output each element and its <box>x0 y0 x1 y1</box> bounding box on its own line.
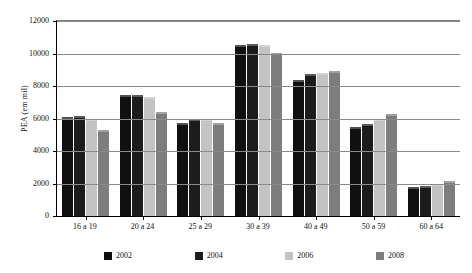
y-tick-label: 6000 <box>0 115 49 123</box>
x-axis-label: 50 a 59 <box>345 222 403 231</box>
bar <box>432 184 443 216</box>
bar <box>62 117 73 216</box>
y-tick-mark <box>53 184 57 185</box>
x-axis-labels: 16 a 1920 a 2425 a 2930 a 3940 a 4950 a … <box>56 222 460 231</box>
bar <box>259 45 270 216</box>
bar-highlight <box>213 123 224 125</box>
legend-swatch-icon <box>285 252 293 260</box>
y-tick-mark <box>53 86 57 87</box>
x-axis-label: 40 a 49 <box>287 222 345 231</box>
y-tick-label: 8000 <box>0 82 49 90</box>
legend-swatch-icon <box>104 252 112 260</box>
gridline <box>57 54 460 55</box>
bar <box>305 74 316 216</box>
legend-item[interactable]: 2004 <box>195 251 223 260</box>
y-tick-mark <box>53 151 57 152</box>
y-tick-mark <box>53 54 57 55</box>
bar <box>156 112 167 216</box>
x-axis-label: 16 a 19 <box>56 222 114 231</box>
legend-label: 2004 <box>207 251 223 260</box>
bar <box>293 80 304 216</box>
bar <box>177 123 188 216</box>
bar-highlight <box>293 80 304 82</box>
legend-swatch-icon <box>376 252 384 260</box>
y-tick-mark <box>53 119 57 120</box>
bar <box>408 187 419 216</box>
y-tick-label: 0 <box>0 212 49 220</box>
bar-highlight <box>386 114 397 116</box>
bar <box>213 123 224 216</box>
gridline <box>57 21 460 22</box>
y-tick-mark <box>53 216 57 217</box>
bar-highlight <box>247 44 258 46</box>
bar-highlight <box>329 71 340 73</box>
y-tick-label: 4000 <box>0 147 49 155</box>
bar-highlight <box>317 73 328 75</box>
bar <box>444 181 455 216</box>
legend-label: 2002 <box>116 251 132 260</box>
bar <box>132 95 143 216</box>
chart-legend: 2002200420062008 <box>104 251 404 260</box>
gridline <box>57 151 460 152</box>
bar-highlight <box>156 112 167 114</box>
legend-label: 2006 <box>297 251 313 260</box>
bar-highlight <box>177 123 188 125</box>
y-tick-label: 2000 <box>0 180 49 188</box>
bar-highlight <box>132 95 143 97</box>
legend-item[interactable]: 2006 <box>285 251 313 260</box>
gridline <box>57 86 460 87</box>
legend-swatch-icon <box>195 252 203 260</box>
bar <box>386 114 397 216</box>
bar-highlight <box>408 187 419 189</box>
bar-highlight <box>362 124 373 126</box>
bar <box>120 95 131 216</box>
bar <box>74 116 85 216</box>
bar-highlight <box>144 97 155 99</box>
bar <box>247 44 258 216</box>
bar-highlight <box>350 127 361 129</box>
bar-highlight <box>259 45 270 47</box>
bar <box>329 71 340 216</box>
bar-highlight <box>420 186 431 188</box>
x-axis-label: 30 a 39 <box>229 222 287 231</box>
bar-chart: PEA (em mil) 020004000600080001000012000… <box>0 0 472 273</box>
gridline <box>57 216 460 217</box>
bar-highlight <box>235 45 246 47</box>
y-tick-mark <box>53 21 57 22</box>
bar-highlight <box>305 74 316 76</box>
x-axis-label: 60 a 64 <box>402 222 460 231</box>
bar <box>189 119 200 216</box>
gridline <box>57 184 460 185</box>
bar <box>420 186 431 216</box>
bar <box>374 119 385 217</box>
gridline <box>57 119 460 120</box>
bar <box>201 119 212 216</box>
x-axis-label: 25 a 29 <box>171 222 229 231</box>
bar-highlight <box>120 95 131 97</box>
bar <box>144 97 155 216</box>
bar <box>271 53 282 216</box>
bar <box>362 124 373 216</box>
bar <box>317 73 328 216</box>
bar-highlight <box>98 130 109 132</box>
legend-item[interactable]: 2002 <box>104 251 132 260</box>
bar <box>350 127 361 216</box>
y-tick-label: 12000 <box>0 17 49 25</box>
legend-label: 2008 <box>388 251 404 260</box>
bar <box>86 119 97 216</box>
x-axis-label: 20 a 24 <box>114 222 172 231</box>
legend-item[interactable]: 2008 <box>376 251 404 260</box>
bar <box>235 45 246 216</box>
y-tick-label: 10000 <box>0 50 49 58</box>
bar <box>98 130 109 216</box>
plot-area: 020004000600080001000012000 <box>56 20 460 216</box>
